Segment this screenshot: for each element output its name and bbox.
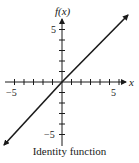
x-axis-label: x [128, 76, 134, 88]
x-tick-label-pos5: 5 [111, 87, 116, 98]
y-axis-label: f(x) [55, 5, 71, 18]
identity-line [62, 15, 128, 82]
y-tick-label-neg5: −5 [44, 129, 55, 140]
chart-caption: Identity function [0, 145, 139, 157]
y-tick-label-pos5: 5 [51, 24, 56, 35]
identity-function-graph: f(x) x −5 5 5 −5 [0, 0, 139, 163]
x-tick-label-neg5: −5 [6, 87, 17, 98]
